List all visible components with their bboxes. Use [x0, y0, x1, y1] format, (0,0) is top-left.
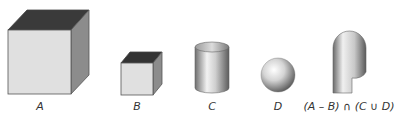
cylinder-c — [195, 42, 229, 93]
sphere-d — [261, 58, 295, 92]
label-d: D — [274, 100, 282, 113]
label-b: B — [133, 100, 141, 113]
composite-result — [333, 31, 366, 93]
label-a: A — [36, 100, 44, 113]
cube-a — [8, 10, 89, 94]
cube-b — [121, 52, 162, 95]
label-result: (A – B) ∩ (C ∪ D) — [304, 100, 395, 113]
label-c: C — [208, 100, 216, 113]
